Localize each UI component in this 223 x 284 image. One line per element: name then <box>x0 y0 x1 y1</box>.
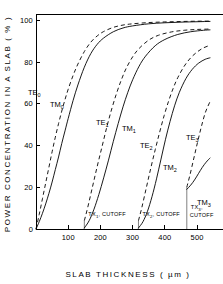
y-axis-tick-labels: 020406080100 <box>20 16 33 234</box>
curve-label-te1: TE1 <box>96 118 109 128</box>
curve-labels: TE0TM0TE1TM1TE2TM2TE3TM3 <box>28 88 211 208</box>
curve-te2 <box>138 45 210 220</box>
cutoff-label-tx2: TX2, CUTOFF <box>142 211 180 219</box>
x-tick-label: 200 <box>94 233 107 242</box>
x-tick-label: 400 <box>158 233 171 242</box>
curve-label-tm0: TM0 <box>50 100 64 110</box>
curve-label-te0: TE0 <box>28 88 41 98</box>
curve-label-te2: TE2 <box>140 141 153 151</box>
y-tick-label: 100 <box>20 16 33 25</box>
x-tick-label: 500 <box>191 233 204 242</box>
y-tick-label: 80 <box>24 58 33 67</box>
cutoff-label-tx1: TX1, CUTOFF <box>88 211 126 219</box>
power-concentration-chart: 020406080100 100200300400500 TE0TM0TE1TM… <box>0 0 223 284</box>
axes-frame <box>36 14 223 229</box>
y-tick-label: 20 <box>24 183 33 192</box>
y-tick-label: 0 <box>29 225 33 234</box>
x-axis-ticks <box>68 225 197 229</box>
x-tick-label: 100 <box>62 233 75 242</box>
curve-label-te3: TE3 <box>186 133 199 143</box>
x-axis-title: SLAB THICKNESS ( µm ) <box>65 270 190 279</box>
y-tick-label: 40 <box>24 141 33 150</box>
figure-container: 020406080100 100200300400500 TE0TM0TE1TM… <box>0 0 223 284</box>
x-axis-tick-labels: 100200300400500 <box>62 233 204 242</box>
curve-label-tm1: TM1 <box>122 124 136 134</box>
curve-tm1 <box>84 30 210 228</box>
y-axis-title: POWER CONCENTRATION IN A SLAB ( % ) <box>3 16 12 232</box>
x-tick-label: 300 <box>126 233 139 242</box>
cutoff-annotations: TX1, CUTOFFTX2, CUTOFFTX3,CUTOFF <box>88 204 214 219</box>
y-axis-ticks <box>36 20 40 229</box>
curve-label-tm2: TM2 <box>163 163 177 173</box>
y-tick-label: 60 <box>24 99 33 108</box>
cutoff-pointer-lines <box>84 187 186 229</box>
